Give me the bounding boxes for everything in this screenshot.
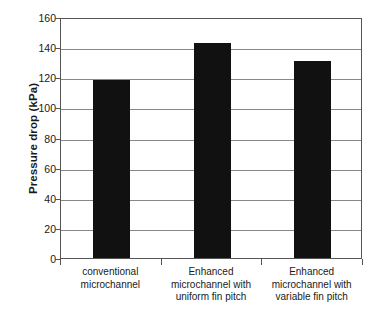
x-axis-tick-mark [60, 259, 61, 265]
y-axis-tick-label: 20 [16, 224, 56, 234]
category-label-line: uniform fin pitch [161, 291, 262, 304]
x-axis-category-label: Enhancedmicrochannel withvariable fin pi… [261, 266, 362, 304]
bar [194, 43, 231, 258]
y-axis-tick-label: 60 [16, 164, 56, 174]
category-label-line: conventional [60, 266, 161, 279]
plot-area [60, 18, 362, 259]
bar-chart-figure: Pressure drop (kPa) 02040608010012014016… [0, 0, 377, 320]
category-label-line: microchannel [60, 279, 161, 292]
category-label-line: Enhanced [161, 266, 262, 279]
y-axis-tick-label: 160 [16, 13, 56, 23]
y-axis-tick-label: 80 [16, 134, 56, 144]
y-axis-tick-label: 40 [16, 194, 56, 204]
category-label-line: microchannel with [261, 279, 362, 292]
y-axis-tick-label: 140 [16, 43, 56, 53]
bar [93, 80, 130, 258]
category-label-line: microchannel with [161, 279, 262, 292]
category-label-line: Enhanced [261, 266, 362, 279]
y-axis-tick-label: 120 [16, 73, 56, 83]
bar [294, 61, 331, 258]
x-axis-tick-mark [261, 259, 262, 265]
x-axis-tick-mark [362, 259, 363, 265]
category-label-line: variable fin pitch [261, 291, 362, 304]
x-axis-category-label: Enhancedmicrochannel withuniform fin pit… [161, 266, 262, 304]
y-axis-tick-label: 100 [16, 103, 56, 113]
y-axis-tick-label: 0 [16, 254, 56, 264]
x-axis-category-label: conventionalmicrochannel [60, 266, 161, 291]
x-axis-tick-mark [161, 259, 162, 265]
